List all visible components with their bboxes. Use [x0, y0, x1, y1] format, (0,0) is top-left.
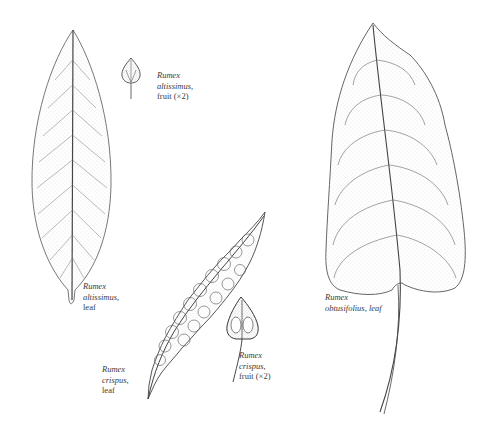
species-name: Rumex	[239, 350, 270, 361]
epithet: crispus,	[239, 361, 270, 372]
botanical-figure: Rumex altissimus, leaf Rumex altissimus,…	[0, 0, 487, 425]
epithet: obtusifolius, leaf	[325, 303, 382, 314]
species-name: Rumex	[325, 292, 382, 303]
altissimus-fruit-drawing	[122, 58, 140, 99]
epithet: altissimus,	[157, 81, 193, 92]
epithet: crispus,	[102, 375, 129, 386]
epithet: altissimus,	[83, 292, 119, 303]
label-obtusifolius-leaf: Rumex obtusifolius, leaf	[325, 292, 382, 313]
part: fruit (×2)	[239, 371, 270, 382]
obtusifolius-leaf-drawing	[326, 23, 465, 414]
label-altissimus-leaf: Rumex altissimus, leaf	[83, 281, 119, 313]
label-crispus-leaf: Rumex crispus, leaf	[102, 364, 129, 396]
species-name: Rumex	[157, 70, 193, 81]
species-name: Rumex	[102, 364, 129, 375]
label-altissimus-fruit: Rumex altissimus, fruit (×2)	[157, 70, 193, 102]
part: leaf	[102, 385, 129, 396]
label-crispus-fruit: Rumex crispus, fruit (×2)	[239, 350, 270, 382]
altissimus-leaf-drawing	[32, 30, 111, 304]
part: fruit (×2)	[157, 91, 193, 102]
part: leaf	[83, 302, 119, 313]
species-name: Rumex	[83, 281, 119, 292]
